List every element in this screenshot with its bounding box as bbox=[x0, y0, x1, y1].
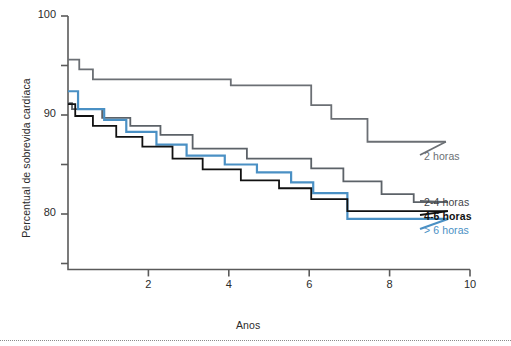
y-tick-label: 80 bbox=[12, 206, 56, 218]
x-tick-label: 10 bbox=[450, 278, 490, 290]
y-axis-title: Percentual de sobrevida cardíaca bbox=[20, 58, 32, 258]
series-line--6-horas bbox=[68, 91, 448, 219]
x-tick-label: 6 bbox=[289, 278, 329, 290]
x-tick-label: 2 bbox=[128, 278, 168, 290]
footer-divider bbox=[0, 340, 511, 341]
series-line-2-horas bbox=[68, 60, 446, 142]
x-axis-title: Anos bbox=[236, 319, 260, 331]
x-tick-label: 8 bbox=[370, 278, 410, 290]
legend-label-2-horas: 2 horas bbox=[424, 150, 460, 162]
axis-spine bbox=[68, 16, 470, 269]
survival-curve-plot bbox=[0, 0, 511, 346]
legend-label-2-4-horas: 2-4 horas bbox=[424, 196, 469, 208]
x-tick-label: 4 bbox=[209, 278, 249, 290]
y-tick-label: 90 bbox=[12, 107, 56, 119]
legend-label--6-horas: > 6 horas bbox=[424, 224, 469, 236]
y-tick-label: 100 bbox=[12, 8, 56, 20]
series-line-2-4-horas bbox=[68, 103, 448, 202]
legend-label-4-6-horas: 4-6 horas bbox=[424, 210, 472, 222]
chart-figure: Percentual de sobrevida cardíaca Anos 10… bbox=[0, 0, 511, 346]
